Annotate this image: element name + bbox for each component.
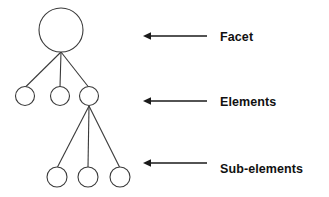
edge-group-element-subelements (58, 106, 120, 167)
elements-label: Elements (220, 95, 276, 109)
facet-level-group (39, 8, 83, 52)
sub-element-node-1[interactable] (47, 167, 67, 187)
facet-annotation-arrow (143, 32, 207, 40)
edge-facet-to-element-1 (26, 52, 62, 87)
element-node-3[interactable] (80, 87, 99, 106)
sub-elements-level-group (47, 167, 130, 187)
edge-element-to-sub-2 (88, 106, 89, 167)
element-node-1[interactable] (16, 87, 35, 106)
elements-arrow-head-icon (143, 97, 151, 105)
facet-label: Facet (220, 30, 254, 44)
edge-facet-to-element-3 (61, 52, 89, 87)
sub-elements-label: Sub-elements (220, 162, 303, 176)
sub-element-node-3[interactable] (110, 167, 130, 187)
element-node-2[interactable] (51, 87, 70, 106)
sub-element-node-2[interactable] (78, 167, 98, 187)
edge-facet-to-element-2 (60, 52, 61, 87)
sub-elements-annotation-arrow (143, 159, 207, 167)
edge-element-to-sub-1 (58, 106, 90, 167)
edge-group-facet-elements (26, 52, 89, 87)
elements-annotation-arrow (143, 97, 207, 105)
facet-arrow-head-icon (143, 32, 151, 40)
edge-element-to-sub-3 (89, 106, 120, 167)
diagram-page: Facet Elements Sub-elements (0, 0, 329, 197)
elements-level-group (16, 87, 99, 106)
facet-node[interactable] (39, 8, 83, 52)
facet-hierarchy-diagram: Facet Elements Sub-elements (0, 0, 329, 197)
sub-elements-arrow-head-icon (143, 159, 151, 167)
